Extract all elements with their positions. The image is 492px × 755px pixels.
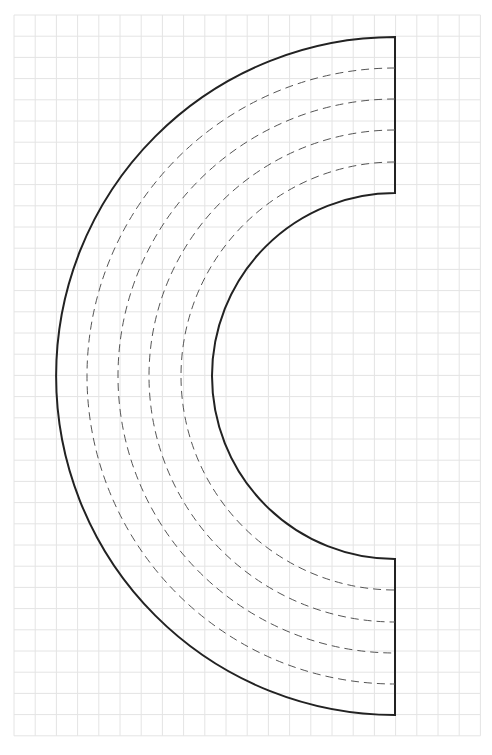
dashed-guide-arc <box>181 162 395 590</box>
arc-template-diagram <box>0 0 492 755</box>
graph-paper-grid <box>14 15 480 736</box>
dashed-guide-arc <box>149 130 395 622</box>
